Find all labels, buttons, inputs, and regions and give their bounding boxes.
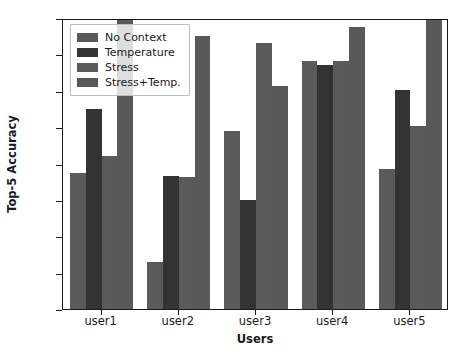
legend-label: Stress [105, 62, 139, 73]
chart-legend: No ContextTemperatureStressStress+Temp. [70, 24, 190, 96]
x-tick-label: user4 [316, 314, 348, 328]
legend-swatch-icon [77, 48, 98, 57]
bar [195, 36, 211, 309]
bar [395, 90, 411, 309]
legend-swatch-icon [77, 78, 98, 87]
legend-label: No Context [105, 32, 167, 43]
x-tick-label: user5 [393, 314, 425, 328]
legend-label: Temperature [105, 47, 175, 58]
bar [302, 61, 318, 309]
bar [333, 61, 349, 309]
x-tick-label: user3 [239, 314, 271, 328]
bar [272, 86, 288, 309]
x-tick-label: user1 [84, 314, 116, 328]
x-tick-label: user2 [162, 314, 194, 328]
legend-item: Stress [77, 60, 181, 75]
x-axis-label: Users [237, 332, 274, 346]
bar [163, 176, 179, 309]
bar [70, 173, 86, 309]
legend-swatch-icon [77, 63, 98, 72]
bar [349, 27, 365, 309]
bar [240, 200, 256, 309]
bar [147, 262, 163, 309]
bar [410, 126, 426, 309]
bar [86, 109, 102, 309]
bar [379, 169, 395, 309]
bar [317, 65, 333, 309]
legend-item: Temperature [77, 45, 181, 60]
bar [256, 43, 272, 309]
legend-label: Stress+Temp. [105, 77, 181, 88]
legend-swatch-icon [77, 33, 98, 42]
bar-chart-figure: 0.600.650.700.750.800.850.900.951.00 Top… [0, 0, 463, 356]
bar [426, 20, 442, 309]
legend-item: Stress+Temp. [77, 75, 181, 90]
bar [102, 156, 118, 310]
y-axis-label: Top-5 Accuracy [5, 64, 19, 264]
bar [179, 177, 195, 309]
y-tick-mark [56, 310, 62, 311]
bar [224, 131, 240, 309]
legend-item: No Context [77, 30, 181, 45]
